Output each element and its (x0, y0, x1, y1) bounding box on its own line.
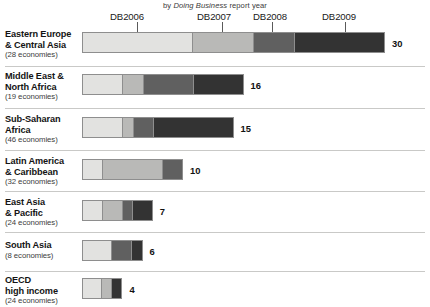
subtitle-pre: by (163, 1, 173, 10)
stacked-bar-6[interactable] (82, 240, 143, 261)
bar-segment-db2007[interactable] (122, 118, 133, 137)
region-name-line2: & Caribbean (5, 167, 79, 178)
region-name-line2: high income (5, 286, 79, 297)
region-name-line2: Africa (5, 125, 79, 136)
stacked-bar-7[interactable] (82, 278, 122, 299)
column-header-db2006: DB2006 (110, 11, 144, 22)
economies-count: (24 economies) (5, 296, 79, 306)
row-separator-5 (5, 232, 425, 233)
leader-line-db2006 (137, 22, 138, 32)
bar-segment-db2008[interactable] (253, 33, 294, 52)
row-label-6: South Asia(8 economies) (5, 240, 79, 261)
region-name-line2: North Africa (5, 82, 79, 93)
economies-count: (19 economies) (5, 92, 79, 102)
region-name-line1: Middle East & (5, 71, 79, 82)
bar-segment-db2008[interactable] (133, 118, 154, 137)
bar-segment-db2007[interactable] (192, 33, 253, 52)
bar-total-value-4: 10 (190, 165, 200, 176)
row-label-3: Sub-SaharanAfrica(46 economies) (5, 114, 79, 145)
bar-segment-db2007[interactable] (122, 75, 143, 94)
stacked-bar-4[interactable] (82, 159, 183, 180)
bar-total-value-2: 16 (251, 80, 261, 91)
row-label-5: East Asia& Pacific(24 economies) (5, 197, 79, 228)
row-label-7: OECDhigh income(24 economies) (5, 275, 79, 306)
bar-segment-db2006[interactable] (83, 160, 102, 179)
bar-segment-db2006[interactable] (83, 279, 101, 298)
column-header-db2008: DB2008 (253, 11, 287, 22)
region-name-line1: Sub-Saharan (5, 114, 79, 125)
bar-segment-db2006[interactable] (83, 201, 102, 220)
row-separator-3 (5, 150, 425, 151)
bar-segment-db2009[interactable] (294, 33, 384, 52)
bar-segment-db2009[interactable] (131, 241, 141, 260)
bar-segment-db2006[interactable] (83, 118, 122, 137)
chart-subtitle: by Doing Business report year (0, 1, 430, 10)
row-label-1: Eastern Europe& Central Asia(28 economie… (5, 29, 79, 60)
column-header-db2009: DB2009 (322, 11, 356, 22)
bar-total-value-7: 4 (129, 284, 134, 295)
row-separator-1 (5, 66, 425, 67)
bar-segment-db2007[interactable] (101, 279, 111, 298)
region-name-line2: & Pacific (5, 208, 79, 219)
subtitle-post: report year (227, 1, 267, 10)
bar-segment-db2008[interactable] (111, 241, 131, 260)
bar-segment-db2007[interactable] (102, 201, 122, 220)
bar-segment-db2008[interactable] (162, 160, 182, 179)
economies-count: (32 economies) (5, 177, 79, 187)
region-name-line1: Latin America (5, 156, 79, 167)
region-name-line1: South Asia (5, 240, 79, 251)
stacked-bar-3[interactable] (82, 117, 234, 138)
stacked-bar-1[interactable] (82, 32, 385, 53)
bar-segment-db2009[interactable] (132, 201, 152, 220)
column-header-db2007: DB2007 (197, 11, 231, 22)
row-label-2: Middle East &North Africa(19 economies) (5, 71, 79, 102)
bar-total-value-5: 7 (160, 206, 165, 217)
leader-line-db2007 (222, 22, 223, 32)
bar-total-value-3: 15 (241, 123, 251, 134)
economies-count: (46 economies) (5, 135, 79, 145)
leader-line-db2008 (272, 22, 273, 32)
stacked-bar-2[interactable] (82, 74, 244, 95)
bar-segment-db2007[interactable] (102, 160, 161, 179)
economies-count: (8 economies) (5, 251, 79, 261)
region-name-line1: East Asia (5, 197, 79, 208)
region-name-line1: OECD (5, 275, 79, 286)
bar-segment-db2008[interactable] (122, 201, 132, 220)
bar-segment-db2006[interactable] (83, 75, 122, 94)
chart-container: by Doing Business report year DB2006DB20… (0, 0, 430, 307)
bar-segment-db2008[interactable] (143, 75, 193, 94)
economies-count: (24 economies) (5, 218, 79, 228)
bar-total-value-6: 6 (150, 246, 155, 257)
subtitle-emphasis: Doing Business (173, 1, 227, 10)
stacked-bar-5[interactable] (82, 200, 153, 221)
leader-line-db2009 (345, 22, 346, 32)
bar-segment-db2009[interactable] (111, 279, 121, 298)
bar-segment-db2009[interactable] (193, 75, 243, 94)
bar-total-value-1: 30 (392, 38, 402, 49)
region-name-line1: Eastern Europe (5, 29, 79, 40)
row-separator-2 (5, 108, 425, 109)
bar-segment-db2006[interactable] (83, 33, 192, 52)
bar-segment-db2009[interactable] (153, 118, 232, 137)
row-separator-4 (5, 191, 425, 192)
region-name-line2: & Central Asia (5, 40, 79, 51)
row-label-4: Latin America& Caribbean(32 economies) (5, 156, 79, 187)
economies-count: (28 economies) (5, 50, 79, 60)
row-separator-6 (5, 271, 425, 272)
bar-segment-db2006[interactable] (83, 241, 111, 260)
